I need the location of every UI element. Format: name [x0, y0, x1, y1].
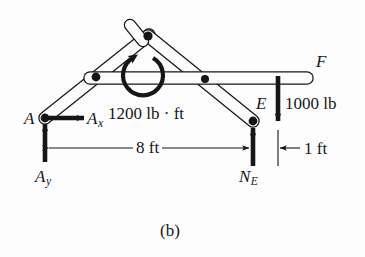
label-reaction-ay-subscript: y: [45, 175, 51, 188]
figure-caption: (b): [160, 222, 180, 239]
pin-joint-e: [249, 117, 258, 126]
free-body-diagram-drawing: [0, 0, 365, 257]
label-reaction-ne-subscript: E: [250, 175, 258, 188]
label-point-e: E: [256, 95, 266, 112]
pin-joint-apex: [143, 31, 152, 40]
pin-joint-left: [92, 73, 101, 82]
figure-container: A Ax 1200 lb · ft Ay 8 ft E F 1000 lb NE…: [0, 0, 365, 257]
label-dimension-span: 8 ft: [133, 139, 162, 156]
label-point-f: F: [316, 53, 326, 70]
label-point-a: A: [24, 110, 34, 127]
label-vertical-force: 1000 lb: [285, 95, 336, 112]
label-reaction-ay: Ay: [35, 168, 51, 188]
member-apex-cap: [130, 25, 143, 41]
label-reaction-ay-base: A: [35, 167, 45, 186]
label-reaction-ax: Ax: [87, 110, 103, 130]
label-reaction-ax-base: A: [87, 109, 97, 128]
pin-joint-right: [201, 75, 209, 83]
label-couple-moment: 1200 lb · ft: [108, 105, 184, 122]
dimension-overhang-1ft: [278, 130, 300, 166]
label-reaction-ne: NE: [239, 168, 258, 188]
label-dimension-overhang: 1 ft: [304, 140, 327, 157]
label-reaction-ne-base: N: [239, 167, 250, 186]
label-reaction-ax-subscript: x: [97, 117, 103, 130]
